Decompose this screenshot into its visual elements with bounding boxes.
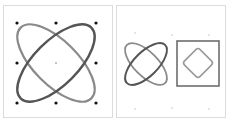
faint-mark: [208, 34, 210, 36]
rounded-diamond: [182, 47, 213, 78]
left-diagram-panel: [3, 5, 113, 118]
center-point: [55, 62, 57, 64]
ellipses-and-square-diagram: [117, 6, 227, 119]
right-diagram-panel: [116, 5, 226, 118]
crossed-ellipses-with-grid: [4, 6, 114, 119]
control-point: [15, 101, 18, 104]
control-point: [54, 21, 57, 24]
faint-mark: [171, 107, 173, 109]
faint-mark: [171, 34, 173, 36]
faint-marks: [134, 32, 210, 110]
control-point: [15, 61, 18, 64]
control-point: [54, 101, 57, 104]
faint-mark: [134, 32, 136, 34]
control-point: [94, 101, 97, 104]
control-point: [94, 61, 97, 64]
control-point: [94, 21, 97, 24]
faint-mark: [208, 108, 210, 110]
faint-mark: [134, 108, 136, 110]
control-point: [15, 21, 18, 24]
